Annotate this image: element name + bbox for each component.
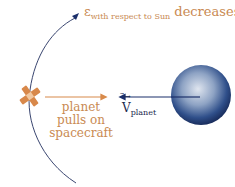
diagram-canvas	[0, 0, 235, 187]
energy-subscript: with respect to Sun	[91, 12, 170, 21]
energy-label: εwith respect to Sun decreases	[84, 4, 235, 21]
vector-v: ⃗→V	[122, 101, 131, 115]
force-label: planet pulls on spacecraft	[45, 101, 117, 140]
force-label-line3: spacecraft	[45, 127, 117, 140]
planet-icon	[171, 65, 231, 125]
epsilon-symbol: ε	[84, 4, 91, 19]
energy-change-word: decreases	[174, 4, 235, 19]
velocity-label: ⃗→Vplanet	[122, 101, 156, 117]
velocity-subscript: planet	[131, 108, 157, 117]
spacecraft-icon	[15, 81, 46, 112]
